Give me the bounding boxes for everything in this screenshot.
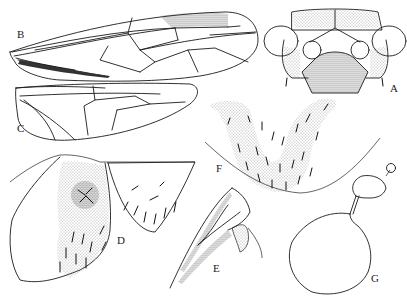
label-D: D (117, 234, 125, 246)
label-C: C (17, 122, 24, 134)
forewing-drawing (10, 12, 258, 81)
head-drawing (264, 9, 406, 93)
spermatheca-drawing (289, 164, 395, 294)
setose-plate-drawing (205, 98, 380, 193)
label-E: E (213, 262, 220, 274)
label-B: B (17, 28, 24, 40)
label-G: G (371, 272, 379, 284)
abdominal-plate-drawing (10, 155, 195, 282)
hindwing-drawing (16, 83, 198, 140)
label-F: F (216, 162, 222, 174)
label-A: A (390, 82, 398, 94)
figure-plate: B C A (0, 0, 407, 300)
